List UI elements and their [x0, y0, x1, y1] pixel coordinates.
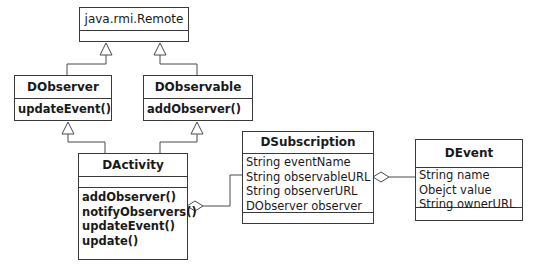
- class-dobserver: DObserver updateEvent(): [14, 75, 112, 121]
- operations: [243, 213, 373, 214]
- generalization-dobserver-remote: [67, 55, 106, 75]
- operation: update(): [82, 234, 187, 249]
- attributes: [79, 177, 187, 188]
- aggregation-diamond-icon: [373, 172, 389, 182]
- class-name: DObserver: [15, 76, 111, 99]
- class-dsubscription: DSubscription String eventName String ob…: [242, 131, 374, 224]
- attributes: String eventName String observableURL St…: [243, 154, 373, 213]
- class-name: DActivity: [79, 154, 187, 177]
- operation: updateEvent(): [82, 219, 187, 234]
- generalization-arrowhead-icon: [62, 122, 74, 134]
- class-name: DEvent: [416, 140, 522, 168]
- class-dobservable: DObservable addObserver(): [143, 75, 253, 121]
- operations: addObserver(): [144, 99, 252, 119]
- class-name: DSubscription: [243, 132, 373, 154]
- class-remote: java.rmi.Remote: [79, 7, 189, 42]
- generalization-arrowhead-icon: [100, 43, 112, 55]
- attribute: String observableURL: [246, 170, 373, 185]
- attribute: DObserver observer: [246, 199, 373, 214]
- generalization-dactivity-dobservable: [160, 134, 197, 153]
- class-name: DObservable: [144, 76, 252, 99]
- generalization-dobservable-remote: [160, 55, 197, 75]
- operation: addObserver(): [82, 190, 187, 205]
- attributes: String name Obejct value String ownerURL: [416, 168, 522, 208]
- aggregation-dactivity-dsubscription: [203, 175, 242, 206]
- attribute: String name: [419, 168, 522, 183]
- generalization-arrowhead-icon: [154, 43, 166, 55]
- attribute: String eventName: [246, 155, 373, 170]
- operation: notifyObservers(): [82, 205, 187, 220]
- attribute: String ownerURL: [419, 197, 522, 212]
- attribute: Obejct value: [419, 183, 522, 198]
- attribute: String observerURL: [246, 184, 373, 199]
- class-name: java.rmi.Remote: [80, 8, 188, 31]
- generalization-dactivity-dobserver: [68, 134, 105, 153]
- generalization-arrowhead-icon: [191, 122, 203, 134]
- operation: addObserver(): [147, 100, 252, 119]
- class-dactivity: DActivity addObserver() notifyObservers(…: [78, 153, 188, 260]
- operations: addObserver() notifyObservers() updateEv…: [79, 188, 187, 248]
- operations: updateEvent(): [15, 99, 111, 119]
- operation: updateEvent(): [18, 100, 111, 119]
- class-devent: DEvent String name Obejct value String o…: [415, 139, 523, 221]
